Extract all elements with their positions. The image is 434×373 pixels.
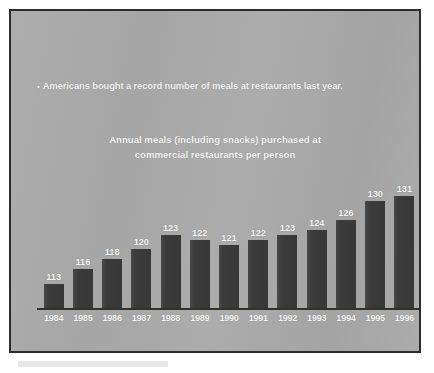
bar-slot: 121 — [214, 174, 243, 308]
bar-slot: 123 — [273, 174, 302, 308]
bar — [190, 240, 210, 308]
bar-value-label: 122 — [192, 228, 207, 238]
presentation-panel: •Americans bought a record number of mea… — [9, 9, 421, 353]
bar-value-label: 116 — [75, 257, 90, 267]
bullet-statement-text: Americans bought a record number of meal… — [43, 80, 343, 91]
bar-series: 113116118120123122121122123124126130131 — [39, 174, 419, 308]
chart-title-line-2: commercial restaurants per person — [11, 148, 419, 163]
year-label: 1995 — [361, 313, 390, 323]
bar-value-label: 123 — [163, 223, 178, 233]
page-edge-artifact — [18, 361, 168, 367]
chart-plot-area: 113116118120123122121122123124126130131 — [39, 174, 419, 308]
bar — [73, 269, 93, 308]
year-label: 1996 — [390, 313, 419, 323]
bar — [336, 220, 356, 308]
bar-value-label: 130 — [368, 189, 383, 199]
bar — [131, 249, 151, 308]
bar-slot: 122 — [244, 174, 273, 308]
bar-value-label: 124 — [309, 218, 324, 228]
bar — [102, 259, 122, 308]
bar-value-label: 123 — [280, 223, 295, 233]
bullet-statement: •Americans bought a record number of mea… — [37, 80, 405, 91]
bar — [219, 245, 239, 308]
year-label: 1992 — [273, 313, 302, 323]
bullet-dot-icon: • — [37, 82, 40, 91]
bar-slot: 131 — [390, 174, 419, 308]
chart-title: Annual meals (including snacks) purchase… — [11, 133, 419, 162]
bar-value-label: 120 — [134, 237, 149, 247]
bar-slot: 120 — [127, 174, 156, 308]
bar-slot: 116 — [68, 174, 97, 308]
x-axis-tick-labels: 1984198519861987198819891990199119921993… — [39, 313, 419, 323]
year-label: 1994 — [331, 313, 360, 323]
bar-slot: 124 — [302, 174, 331, 308]
bar-value-label: 131 — [397, 184, 412, 194]
year-label: 1985 — [68, 313, 97, 323]
bar-slot: 118 — [97, 174, 126, 308]
bar-slot: 126 — [331, 174, 360, 308]
x-axis-baseline — [37, 308, 421, 310]
bar-slot: 122 — [185, 174, 214, 308]
bar — [307, 230, 327, 308]
year-label: 1989 — [185, 313, 214, 323]
bar — [365, 201, 385, 308]
year-label: 1986 — [97, 313, 126, 323]
bar — [394, 196, 414, 308]
bar-slot: 113 — [39, 174, 68, 308]
bar-value-label: 121 — [221, 233, 236, 243]
bar-value-label: 126 — [338, 208, 353, 218]
year-label: 1993 — [302, 313, 331, 323]
year-label: 1984 — [39, 313, 68, 323]
year-label: 1988 — [156, 313, 185, 323]
bar — [44, 284, 64, 308]
bar-slot: 123 — [156, 174, 185, 308]
bar — [161, 235, 181, 308]
bar-value-label: 122 — [251, 228, 266, 238]
bar — [248, 240, 268, 308]
slide-root: •Americans bought a record number of mea… — [0, 0, 434, 373]
year-label: 1987 — [127, 313, 156, 323]
bar — [277, 235, 297, 308]
year-label: 1991 — [244, 313, 273, 323]
bar-value-label: 118 — [105, 247, 120, 257]
bar-value-label: 113 — [46, 272, 61, 282]
bar-slot: 130 — [361, 174, 390, 308]
year-label: 1990 — [214, 313, 243, 323]
chart-title-line-1: Annual meals (including snacks) purchase… — [11, 133, 419, 148]
